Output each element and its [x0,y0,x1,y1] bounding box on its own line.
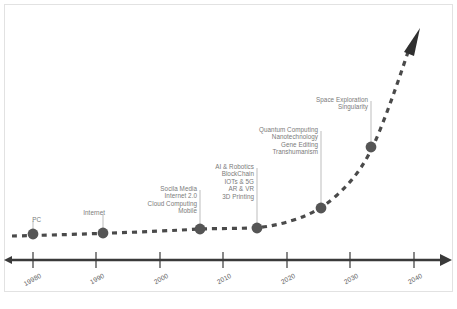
milestone-ai-iot-label-block: AI & RoboticsBlockChainIOTs & 5GAR & VR3… [215,163,254,200]
milestone-label-line: Quantum Computing [259,126,318,133]
milestone-label-line: Internet [83,209,105,216]
milestone-label-line: AR & VR [215,185,254,192]
milestone-ai-iot-dot[interactable] [252,223,263,234]
milestone-label-line: BlockChain [215,170,254,177]
milestone-label-line: Cloud Computing [148,200,197,207]
milestone-label-line: Nanotechnology [259,133,318,140]
milestone-label-line: Singularity [316,103,368,110]
milestone-label-line: IOTs & 5G [215,178,254,185]
milestone-pc-label-block: PC [32,216,41,223]
milestone-label-line: Internet 2.0 [148,192,197,199]
timeline-axis-group [4,252,452,268]
figure-canvas: 19980199020002010202020302040 PCInternet… [0,0,457,309]
growth-curve-group [12,28,420,236]
milestone-internet-label-block: Internet [83,209,105,216]
milestone-label-line: 3D Printing [215,193,254,200]
milestone-internet-dot[interactable] [98,228,109,239]
axis-right-arrowhead [440,254,452,266]
timeline-plot [0,0,457,309]
axis-left-arrowhead [4,256,12,264]
milestone-pc-dot[interactable] [28,229,39,240]
milestone-label-line: Space Exploration [316,96,368,103]
milestone-label-line: Transhumanism [259,148,318,155]
milestone-label-line: Mobile [148,207,197,214]
milestone-quantum-nano-label-block: Quantum ComputingNanotechnologyGene Edit… [259,126,318,156]
curve-arrowhead [404,28,420,56]
exponential-growth-curve [12,46,410,236]
milestone-social-mobile-dot[interactable] [195,224,206,235]
milestone-social-mobile-label-block: Socila MediaInternet 2.0Cloud ComputingM… [148,185,197,215]
milestone-label-line: PC [32,216,41,223]
milestone-label-line: Socila Media [148,185,197,192]
milestone-space-singularity-label-block: Space ExplorationSingularity [316,96,368,111]
milestone-space-singularity-dot[interactable] [366,142,377,153]
milestone-quantum-nano-dot[interactable] [316,203,327,214]
milestone-label-line: Gene Editing [259,141,318,148]
milestone-label-line: AI & Robotics [215,163,254,170]
milestone-dots-group [28,142,377,240]
